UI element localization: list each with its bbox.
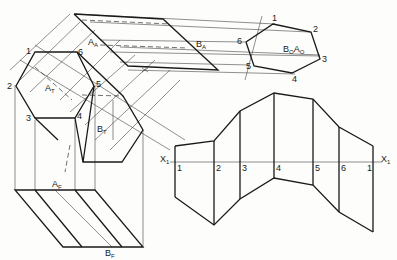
fold-label-1b: 1 [367,164,372,173]
point-vertex-3: 3 [322,55,327,64]
axis-label-left: X1 [160,155,169,165]
fold-label-1: 1 [177,164,182,173]
label-point-view: BOAO [283,45,304,55]
point-vertex-1: 1 [272,14,277,23]
axis-label-right: X1 [381,155,390,165]
fold-label-6: 6 [341,164,346,173]
point-vertex-6: 6 [237,37,242,46]
point-vertex-4: 4 [292,75,297,84]
label-b-front: BF [105,249,115,259]
fold-label-5: 5 [315,164,320,173]
fold-label-3: 3 [242,164,247,173]
top-vertex-2: 2 [7,82,12,91]
top-vertex-6: 6 [78,48,83,57]
label-b-aux: BA [196,40,206,50]
top-vertex-3: 3 [26,114,31,123]
label-a-aux: AA [88,38,98,48]
point-vertex-5: 5 [246,62,251,71]
label-a-front: AF [52,180,62,190]
fold-label-4: 4 [276,164,281,173]
top-vertex-1: 1 [26,47,31,56]
hidden-lines [35,20,188,172]
point-vertex-2: 2 [313,25,318,34]
fold-label-2: 2 [216,164,221,173]
top-vertex-4: 4 [77,112,82,121]
top-vertex-5: 5 [96,80,101,89]
label-a-top: AT [45,84,55,94]
front-view-prism [15,190,143,247]
descriptive-geometry-drawing: AA BA AT BT AF BF BOAO 1 2 3 4 5 6 1 2 3… [0,0,397,260]
label-b-top: BT [97,125,107,135]
